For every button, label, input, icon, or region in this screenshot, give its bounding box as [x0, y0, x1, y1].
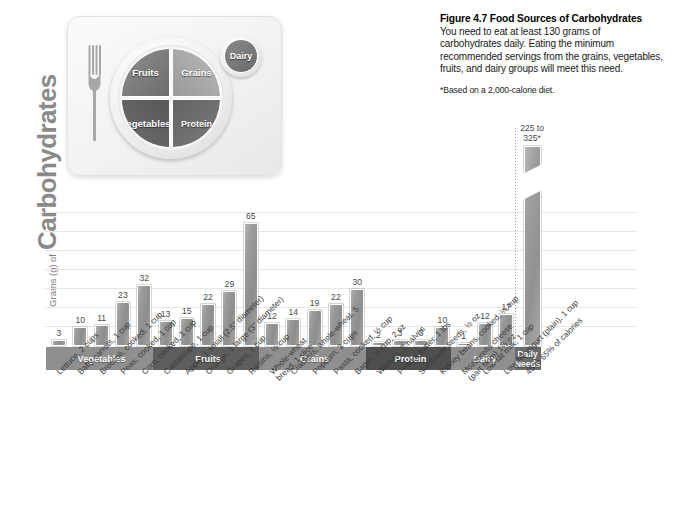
bar-slot: 10 — [73, 60, 87, 346]
bar-slot: 29 — [222, 60, 236, 346]
bar-value-label: 22 — [203, 292, 213, 302]
bar-value-label: 29 — [225, 279, 235, 289]
bar-slot: 22 — [201, 60, 215, 346]
bar-value-label: 65 — [246, 211, 256, 221]
bar-slot: 10 — [435, 60, 449, 346]
bar-slot: 11 — [95, 60, 109, 346]
bar-slot: 3 — [414, 60, 428, 346]
daily-needs-value-line2: 325* — [520, 133, 544, 143]
daily-needs-bar — [524, 146, 541, 346]
bar-value-label: 15 — [182, 306, 192, 316]
bar-value-label: 10 — [76, 315, 86, 325]
bar-slot: 13 — [159, 60, 173, 346]
bar-slot: 15 — [180, 60, 194, 346]
bar-slot: 2 — [372, 60, 386, 346]
bar-value-label: 23 — [118, 290, 128, 300]
bar-slot: 30 — [350, 60, 364, 346]
bar-value-label: 3 — [57, 328, 62, 338]
bar-slot: 3 — [393, 60, 407, 346]
bar-slot: 22 — [329, 60, 343, 346]
bar-value-label: 14 — [289, 307, 299, 317]
bar-value-label: 32 — [139, 273, 149, 283]
bar-slot: 23 — [116, 60, 130, 346]
bar-slot: 19 — [308, 60, 322, 346]
figure-title: Figure 4.7 Food Sources of Carbohydrates — [440, 12, 664, 25]
axis-break-mark — [523, 164, 542, 199]
bar — [52, 340, 66, 346]
daily-needs-value-label: 225 to325* — [520, 123, 544, 143]
bar-slot: 12 — [478, 60, 492, 346]
bar-value-label: 22 — [331, 292, 341, 302]
daily-needs-bar-slot: 225 to325* — [524, 60, 541, 346]
bar-value-label: 11 — [97, 313, 106, 323]
bar-value-label: 30 — [352, 277, 362, 287]
x-axis-labels: Lettuce, 2 cupsBaby carrots, 1 cupBrocco… — [0, 370, 673, 507]
bar-slot: 14 — [286, 60, 300, 346]
bar-slot: 1 — [457, 60, 471, 346]
bar-series: 3101123321315222965121419223023310112172… — [45, 60, 655, 346]
bar-slot: 32 — [137, 60, 151, 346]
chart-plot-area: 3101123321315222965121419223023310112172… — [45, 60, 655, 346]
bar-value-label: 19 — [310, 298, 320, 308]
daily-needs-value-line1: 225 to — [520, 123, 544, 133]
bar-slot: 3 — [52, 60, 66, 346]
